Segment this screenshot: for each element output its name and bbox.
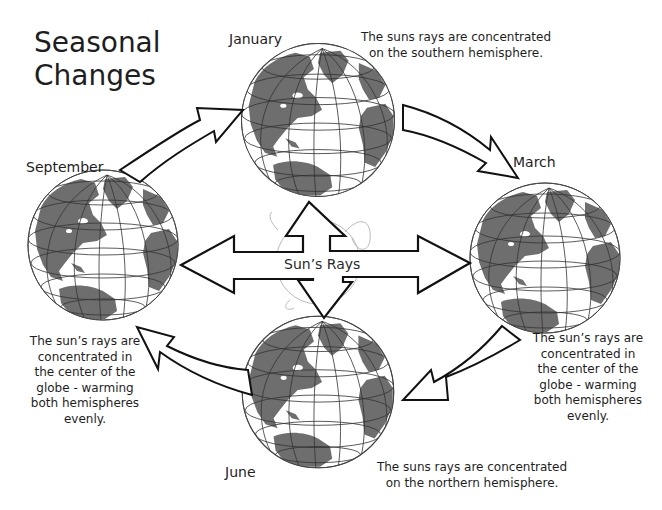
note-line: both hemispheres (528, 393, 648, 409)
note-january: The suns rays are concentrated on the so… (356, 30, 556, 61)
note-march: The sun’s rays are concentrated in the c… (528, 331, 648, 424)
center-label-suns-rays: Sun’s Rays (284, 256, 360, 272)
globe-september (28, 170, 178, 321)
note-line: concentrated in (528, 347, 648, 363)
note-line: on the southern hemisphere. (356, 46, 556, 62)
month-label-june: June (225, 464, 256, 480)
globe-march (470, 183, 620, 334)
title-line-1: Seasonal (34, 26, 161, 59)
globe-january (242, 44, 395, 198)
note-line: the center of the (25, 365, 145, 381)
note-line: both hemispheres (25, 396, 145, 412)
month-label-january: January (229, 31, 282, 47)
note-september: The sun’s rays are concentrated in the c… (25, 334, 145, 427)
arrow-march-to-june (403, 326, 520, 400)
note-line: evenly. (528, 409, 648, 425)
month-label-september: September (26, 159, 103, 175)
globe-june (242, 316, 394, 469)
note-line: The suns rays are concentrated (372, 460, 572, 476)
note-line: The suns rays are concentrated (356, 30, 556, 46)
page-title: Seasonal Changes (34, 26, 161, 92)
arrow-june-to-september (137, 327, 252, 395)
note-line: globe - warming (25, 381, 145, 397)
arrow-september-to-january (120, 108, 243, 182)
note-line: concentrated in (25, 350, 145, 366)
note-line: The sun’s rays are (25, 334, 145, 350)
note-line: evenly. (25, 412, 145, 428)
note-line: globe - warming (528, 378, 648, 394)
note-line: on the northern hemisphere. (372, 476, 572, 492)
month-label-march: March (513, 154, 556, 170)
arrow-january-to-march (403, 105, 518, 178)
title-line-2: Changes (34, 59, 161, 92)
note-line: The sun’s rays are (528, 331, 648, 347)
note-line: the center of the (528, 362, 648, 378)
note-june: The suns rays are concentrated on the no… (372, 460, 572, 491)
